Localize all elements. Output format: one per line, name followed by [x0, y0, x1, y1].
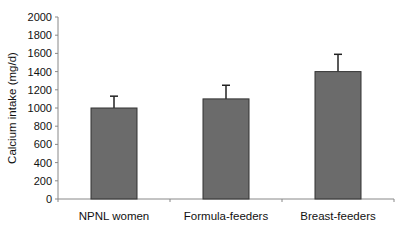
- y-tick-label: 200: [34, 175, 52, 187]
- y-axis-label: Calcium intake (mg/d): [6, 52, 18, 164]
- x-tick-label: Breast-feeders: [300, 210, 376, 222]
- x-tick-label: NPNL women: [79, 210, 150, 222]
- y-tick-label: 0: [46, 193, 52, 205]
- y-tick-label: 1000: [28, 102, 52, 114]
- y-tick-label: 1800: [28, 29, 52, 41]
- y-tick-label: 800: [34, 120, 52, 132]
- bar: [315, 72, 361, 199]
- bar: [203, 99, 249, 199]
- y-tick-label: 2000: [28, 11, 52, 23]
- y-tick-label: 1400: [28, 66, 52, 78]
- x-tick-label: Formula-feeders: [184, 210, 269, 222]
- bar-chart: 0200400600800100012001400160018002000NPN…: [0, 0, 403, 230]
- y-tick-label: 400: [34, 157, 52, 169]
- chart-container: 0200400600800100012001400160018002000NPN…: [0, 0, 403, 230]
- y-tick-label: 600: [34, 138, 52, 150]
- bar: [91, 108, 137, 199]
- y-tick-label: 1200: [28, 84, 52, 96]
- y-tick-label: 1600: [28, 47, 52, 59]
